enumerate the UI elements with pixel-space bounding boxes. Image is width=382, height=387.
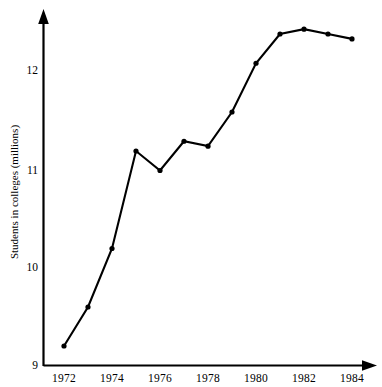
y-axis-title: Students in colleges (millions) [8, 125, 21, 259]
x-tick-label-1972: 1972 [52, 372, 76, 384]
x-tick-label-1982: 1982 [292, 372, 316, 384]
line-chart: 12 11 10 9 1972 1974 1976 1978 1980 1982… [0, 0, 382, 387]
data-point-1981 [277, 31, 282, 36]
y-tick-label-11: 11 [27, 164, 38, 176]
x-tick-label-1984: 1984 [340, 372, 364, 384]
y-tick-label-12: 12 [27, 64, 39, 76]
x-tick-label-1978: 1978 [196, 372, 220, 384]
data-point-1984 [349, 36, 354, 41]
data-point-1979 [229, 109, 234, 114]
data-point-1982 [301, 27, 306, 32]
y-tick-label-9: 9 [32, 359, 38, 371]
chart-background [0, 0, 382, 387]
data-point-1975 [133, 148, 138, 153]
data-point-1977 [181, 139, 186, 144]
x-tick-label-1980: 1980 [244, 372, 268, 384]
data-point-1980 [253, 61, 258, 66]
data-point-1973 [85, 304, 90, 309]
chart-container: 12 11 10 9 1972 1974 1976 1978 1980 1982… [0, 0, 382, 387]
data-point-1978 [205, 144, 210, 149]
data-point-1972 [61, 343, 66, 348]
x-tick-label-1976: 1976 [148, 372, 172, 384]
y-tick-label-10: 10 [27, 261, 39, 273]
x-tick-label-1974: 1974 [100, 372, 124, 384]
data-point-1974 [109, 246, 114, 251]
data-point-1976 [157, 168, 162, 173]
data-point-1983 [325, 31, 330, 36]
